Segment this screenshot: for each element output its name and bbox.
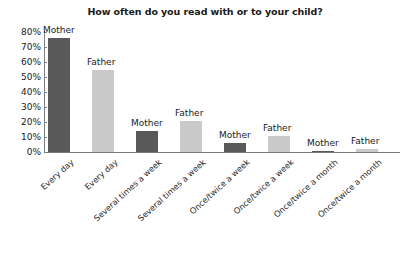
bar-father-3[interactable] bbox=[180, 121, 202, 153]
bar-value-label: Mother bbox=[43, 25, 75, 35]
category-label: Every day bbox=[83, 157, 120, 192]
bar-value-label: Mother bbox=[219, 130, 251, 140]
category-label: Every day bbox=[39, 157, 76, 192]
x-axis-line bbox=[44, 152, 400, 153]
y-axis-tick-label: 50% bbox=[21, 71, 41, 83]
y-axis-tick-labels: 80%70%60%50%40%30%20%10%0% bbox=[0, 0, 41, 254]
y-axis-tick-label: 80% bbox=[21, 26, 41, 38]
y-axis-tick-label: 30% bbox=[21, 101, 41, 113]
y-axis-tick-label: 10% bbox=[21, 131, 41, 143]
bar-mother-2[interactable] bbox=[136, 131, 158, 152]
bar-father-1[interactable] bbox=[92, 70, 114, 153]
y-axis-tick-label: 20% bbox=[21, 116, 41, 128]
bar-father-7[interactable] bbox=[356, 149, 378, 152]
chart-container: How often do you read with or to your ch… bbox=[0, 0, 410, 254]
bar-father-5[interactable] bbox=[268, 136, 290, 153]
bar-value-label: Father bbox=[351, 136, 379, 146]
y-axis-tick-label: 40% bbox=[21, 86, 41, 98]
bar-mother-4[interactable] bbox=[224, 143, 246, 152]
bar-value-label: Father bbox=[175, 108, 203, 118]
bar-mother-6[interactable] bbox=[312, 151, 334, 153]
bar-value-label: Mother bbox=[131, 118, 163, 128]
y-axis-tick-label: 70% bbox=[21, 41, 41, 53]
bar-value-label: Father bbox=[87, 57, 115, 67]
bar-value-label: Father bbox=[263, 123, 291, 133]
chart-title: How often do you read with or to your ch… bbox=[0, 6, 410, 17]
y-axis-tick-label: 0% bbox=[27, 146, 41, 158]
bar-value-label: Mother bbox=[307, 138, 339, 148]
bar-mother-0[interactable] bbox=[48, 38, 70, 152]
y-axis-tick-label: 60% bbox=[21, 56, 41, 68]
